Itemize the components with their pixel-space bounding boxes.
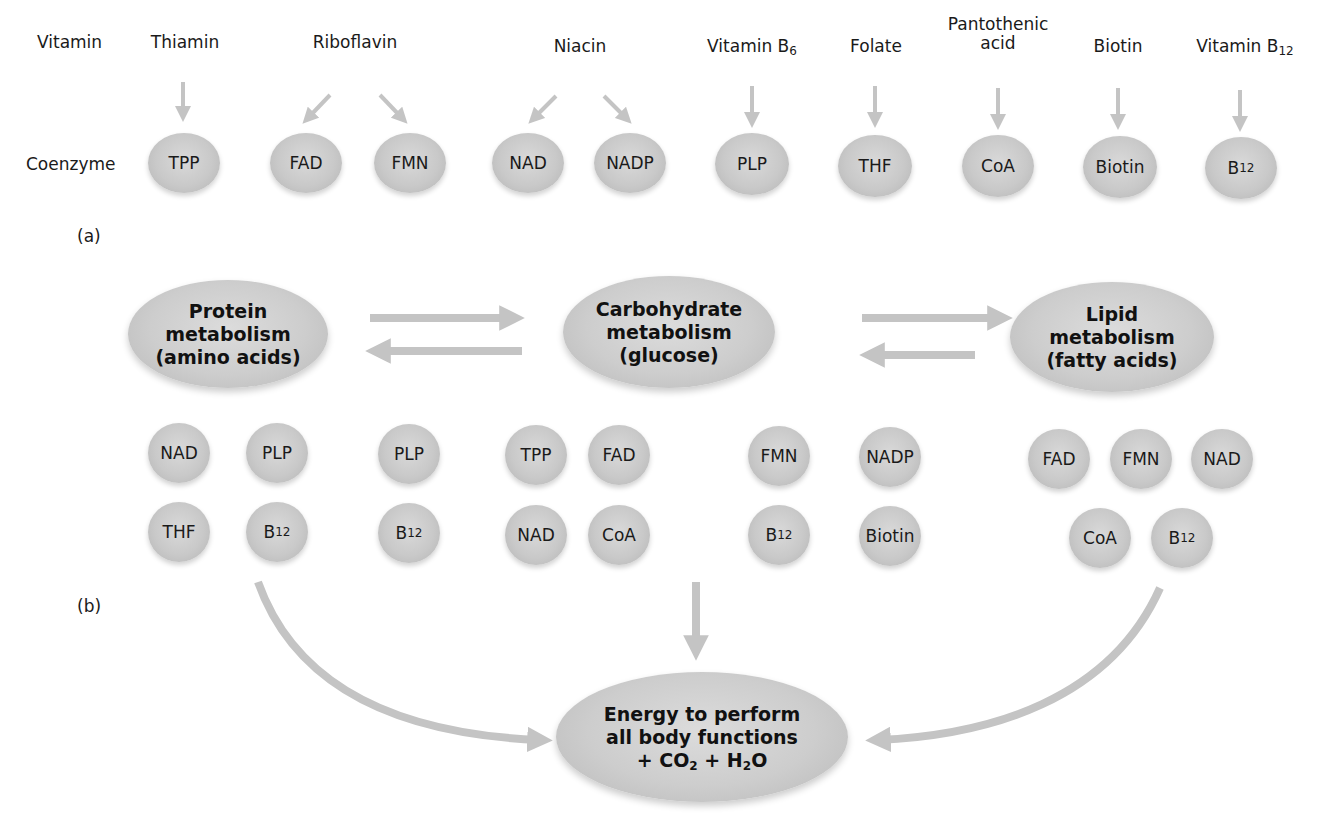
shared-coenzyme-b12: B12 — [378, 503, 440, 563]
vitamin-folate: Folate — [848, 37, 904, 56]
vitamin-b12: Vitamin B12 — [1190, 37, 1300, 56]
protein-coenzyme-nad: NAD — [148, 423, 210, 483]
lipid-coenzyme-b12: B12 — [1151, 508, 1213, 568]
panel-a-tag: (a) — [77, 226, 101, 246]
coenzyme-thf: THF — [838, 135, 912, 197]
protein-coenzyme-plp: PLP — [246, 423, 308, 483]
carb-coenzyme-fmn: FMN — [748, 426, 810, 486]
coenzyme-plp: PLP — [715, 133, 789, 195]
row-label-vitamin: Vitamin — [37, 33, 102, 52]
coenzyme-tpp: TPP — [148, 133, 220, 193]
shared-coenzyme-biotin: Biotin — [859, 506, 921, 566]
shared-coenzyme-plp: PLP — [378, 424, 440, 484]
vitamin-riboflavin: Riboflavin — [305, 33, 405, 52]
carbohydrate-metabolism-node: Carbohydrate metabolism (glucose) — [563, 276, 775, 388]
arrow-niacin-nad — [534, 96, 556, 118]
coenzyme-fad: FAD — [270, 133, 342, 193]
vitamin-niacin: Niacin — [545, 37, 615, 56]
protein-metabolism-node: Protein metabolism (amino acids) — [128, 280, 328, 388]
protein-coenzyme-thf: THF — [148, 502, 210, 562]
carb-coenzyme-nad: NAD — [505, 505, 567, 565]
coenzyme-nadp: NADP — [594, 133, 666, 193]
carb-coenzyme-coa: CoA — [588, 505, 650, 565]
energy-byproducts: + CO2 + H2O — [637, 749, 768, 772]
row-label-coenzyme: Coenzyme — [26, 155, 116, 174]
carb-coenzyme-b12: B12 — [748, 505, 810, 565]
coenzyme-biotin: Biotin — [1083, 136, 1157, 198]
lipid-coenzyme-nad: NAD — [1191, 429, 1253, 489]
arrow-niacin-nadp — [604, 96, 626, 118]
vitamin-thiamin: Thiamin — [148, 33, 222, 52]
arrow-riboflavin-fmn — [380, 95, 402, 118]
coenzyme-nad: NAD — [492, 133, 564, 193]
carb-coenzyme-tpp: TPP — [505, 425, 567, 485]
lipid-coenzyme-coa: CoA — [1069, 508, 1131, 568]
arrow-riboflavin-fad — [308, 95, 330, 118]
vitamin-b6: Vitamin B6 — [702, 37, 802, 56]
protein-coenzyme-b12: B12 — [246, 502, 308, 562]
arrow-lipid-to-energy — [878, 588, 1160, 740]
carb-coenzyme-fad: FAD — [588, 425, 650, 485]
coenzyme-b12: B12 — [1205, 137, 1277, 199]
vitamin-biotin: Biotin — [1088, 37, 1148, 56]
coenzyme-fmn: FMN — [374, 133, 446, 193]
lipid-coenzyme-fmn: FMN — [1110, 429, 1172, 489]
shared-coenzyme-nadp: NADP — [859, 427, 921, 487]
energy-node: Energy to perform all body functions + C… — [556, 672, 848, 802]
lipid-metabolism-node: Lipid metabolism (fatty acids) — [1010, 282, 1214, 392]
panel-b-tag: (b) — [77, 596, 101, 616]
lipid-coenzyme-fad: FAD — [1028, 429, 1090, 489]
arrow-protein-to-energy — [258, 582, 540, 740]
coenzyme-coa: CoA — [962, 135, 1034, 197]
vitamin-pantothenic-acid: Pantothenic acid — [946, 15, 1050, 53]
